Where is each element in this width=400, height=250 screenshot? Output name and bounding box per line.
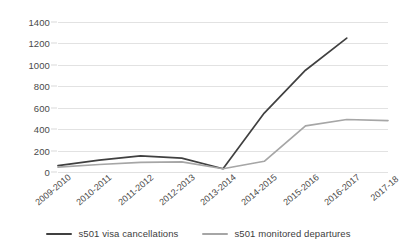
y-axis-tick-mark [51,107,57,108]
legend-item[interactable]: s501 monitored departures [202,228,350,239]
plot-area [58,22,388,172]
chart-legend: s501 visa cancellationss501 monitored de… [0,228,397,239]
y-axis-tick-mark [51,64,57,65]
x-axis-tick-label: 2015-2016 [281,174,318,207]
x-axis-tick-label: 2012-2013 [157,174,194,207]
x-axis-tick-label: 2014-2015 [240,174,277,207]
y-axis-tick-label: 800 [2,81,50,92]
y-axis-tick-mark [51,150,57,151]
legend-line-swatch [46,233,72,235]
y-axis-tick-label: 400 [2,124,50,135]
y-axis-tick-label: 200 [2,145,50,156]
y-axis-tick-label: 1200 [2,38,50,49]
x-axis-tick-label: 2010-2011 [75,174,112,207]
legend-label: s501 monitored departures [234,228,350,239]
legend-item[interactable]: s501 visa cancellations [46,228,178,239]
series-line [58,120,388,169]
x-axis-tick-label: 2011-2012 [116,174,153,207]
y-axis-tick-label: 600 [2,102,50,113]
y-axis-tick-mark [51,172,57,173]
y-axis: 0200400600800100012001400 [0,0,58,172]
y-axis-tick-mark [51,86,57,87]
y-axis-tick-label: 1000 [2,59,50,70]
y-axis-tick-label: 0 [2,167,50,178]
x-axis-tick-label: 2016-2017 [322,174,359,207]
x-axis-tick-label: 2013-2014 [198,174,235,207]
y-axis-tick-label: 1400 [2,17,50,28]
series-line [58,38,347,169]
y-axis-tick-mark [51,22,57,23]
gridline [58,172,388,173]
y-axis-tick-mark [51,43,57,44]
legend-line-swatch [202,233,228,235]
series-lines [58,22,388,172]
x-axis: 2009-20102010-20112011-20122012-20132013… [58,174,388,218]
legend-label: s501 visa cancellations [78,228,178,239]
x-axis-tick-label: 2009-2010 [33,174,70,207]
y-axis-tick-mark [51,129,57,130]
x-axis-tick-label: 2017-18 [363,174,400,207]
